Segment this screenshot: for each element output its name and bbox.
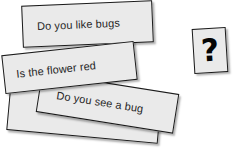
card-scene: Do you see a bug Do you like bugs Is the…: [0, 0, 239, 149]
question-card-like-bugs-label: Do you like bugs: [23, 15, 152, 32]
question-card-see-bug-label: Do you see a bug: [39, 86, 176, 119]
question-mark-icon: ?: [193, 34, 227, 67]
question-card-flower-red-label: Is the flower red: [4, 54, 136, 80]
question-mark-card[interactable]: ?: [192, 27, 229, 74]
question-card-like-bugs[interactable]: Do you like bugs: [21, 0, 154, 47]
